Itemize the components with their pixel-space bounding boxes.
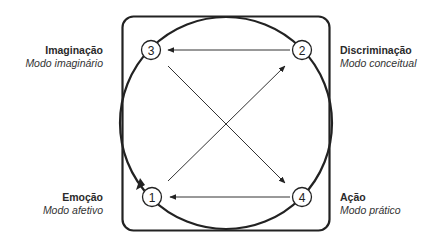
label-imaginacao: Imaginação Modo imaginário [25, 44, 103, 70]
label-title: Ação [340, 191, 401, 204]
label-title: Discriminação [340, 44, 416, 57]
label-discriminacao: Discriminação Modo conceitual [340, 44, 416, 70]
node-3: 3 [142, 41, 161, 60]
node-4: 4 [293, 188, 312, 207]
label-emocao: Emoção Modo afetivo [43, 191, 103, 217]
label-subtitle: Modo imaginário [25, 57, 103, 70]
label-acao: Ação Modo prático [340, 191, 401, 217]
node-1: 1 [143, 188, 162, 207]
label-subtitle: Modo prático [340, 204, 401, 217]
node-number: 2 [299, 44, 306, 58]
node-number: 4 [299, 191, 306, 205]
node-number: 3 [148, 44, 155, 58]
label-title: Imaginação [25, 44, 103, 57]
node-number: 1 [149, 191, 156, 205]
label-subtitle: Modo afetivo [43, 204, 103, 217]
node-2: 2 [293, 41, 312, 60]
label-subtitle: Modo conceitual [340, 57, 416, 70]
label-title: Emoção [43, 191, 103, 204]
